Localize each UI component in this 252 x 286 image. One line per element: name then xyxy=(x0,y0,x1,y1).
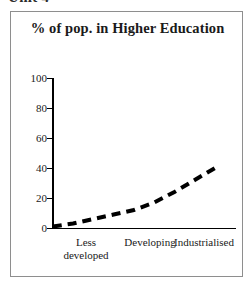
plot-area: 100 80 60 40 20 0 Less developed Develop… xyxy=(11,12,244,278)
clipped-header-text: Unit 4 xyxy=(8,0,128,5)
x-tick-label-less-developed: Less developed xyxy=(55,236,117,261)
series-path-higher-education xyxy=(53,168,215,227)
chart-figure-frame: % of pop. in Higher Education 100 80 60 … xyxy=(10,11,243,277)
x-tick-label-industrialised: Industrialised xyxy=(168,236,240,249)
